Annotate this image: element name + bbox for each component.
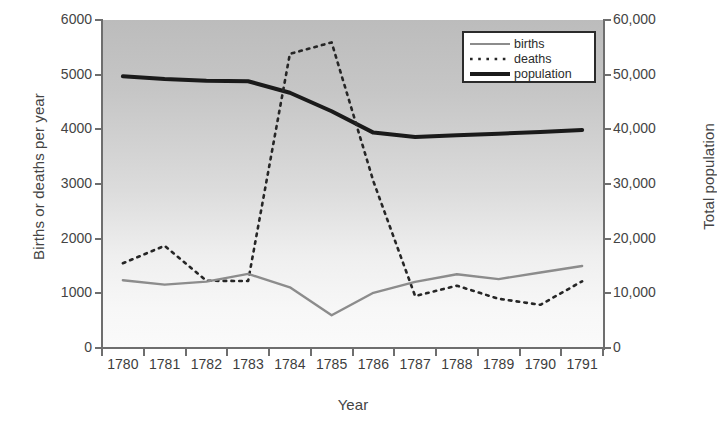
y-axis-right-tick-mark xyxy=(604,347,611,349)
x-axis-tick-mark xyxy=(143,349,145,356)
legend-label-population: population xyxy=(514,67,572,81)
y-axis-right-tick-mark xyxy=(604,292,611,294)
x-axis-title: Year xyxy=(102,396,604,413)
legend-label-deaths: deaths xyxy=(514,52,552,66)
y-axis-right-tick-mark xyxy=(604,238,611,240)
x-axis-tick-mark xyxy=(226,349,228,356)
y-axis-right-tick-mark xyxy=(604,74,611,76)
x-axis-tick-mark xyxy=(101,349,103,356)
y-axis-left-tick-mark xyxy=(95,128,102,130)
x-axis-tick-mark xyxy=(393,349,395,356)
y-axis-right-tick-mark xyxy=(604,19,611,21)
x-axis-tick-label: 1789 xyxy=(476,356,522,372)
legend-swatch-deaths-icon xyxy=(469,54,511,64)
legend-item-population: population xyxy=(469,66,589,81)
x-axis-tick-mark xyxy=(477,349,479,356)
x-axis-tick-mark xyxy=(435,349,437,356)
legend-item-births: births xyxy=(469,36,589,51)
y-axis-left-tick-mark xyxy=(95,19,102,21)
legend-item-deaths: deaths xyxy=(469,51,589,66)
y-axis-right-tick-label: 50,000 xyxy=(613,66,656,82)
y-axis-left-tick-label: 2000 xyxy=(36,230,92,246)
y-axis-right-tick-label: 10,000 xyxy=(613,284,656,300)
x-axis-tick-label: 1786 xyxy=(350,356,396,372)
x-axis-tick-label: 1782 xyxy=(183,356,229,372)
x-axis-tick-label: 1780 xyxy=(100,356,146,372)
y-axis-left-tick-mark xyxy=(95,74,102,76)
legend-label-births: births xyxy=(514,37,545,51)
y-axis-left-tick-label: 1000 xyxy=(36,284,92,300)
x-axis-tick-label: 1785 xyxy=(309,356,355,372)
x-axis-tick-mark xyxy=(185,349,187,356)
y-axis-left-tick-label: 4000 xyxy=(36,120,92,136)
y-axis-left-tick-label: 5000 xyxy=(36,66,92,82)
x-axis-tick-label: 1791 xyxy=(559,356,605,372)
x-axis-tick-label: 1787 xyxy=(392,356,438,372)
series-line-population xyxy=(123,76,582,137)
y-axis-right-title: Total population xyxy=(700,62,717,292)
y-axis-left-tick-label: 0 xyxy=(36,339,92,355)
y-axis-left-tick-label: 6000 xyxy=(36,11,92,27)
series-line-births xyxy=(123,266,582,315)
x-axis-tick-label: 1784 xyxy=(267,356,313,372)
y-axis-right-tick-label: 0 xyxy=(613,339,621,355)
y-axis-right-tick-mark xyxy=(604,183,611,185)
x-axis-tick-label: 1781 xyxy=(142,356,188,372)
y-axis-left-tick-mark xyxy=(95,183,102,185)
x-axis-tick-mark xyxy=(310,349,312,356)
y-axis-left-tick-mark xyxy=(95,238,102,240)
x-axis-tick-mark xyxy=(560,349,562,356)
chart-legend: births deaths population xyxy=(462,31,596,83)
y-axis-left-tick-label: 3000 xyxy=(36,175,92,191)
y-axis-right-tick-label: 60,000 xyxy=(613,11,656,27)
x-axis-tick-label: 1790 xyxy=(517,356,563,372)
y-axis-right-tick-label: 40,000 xyxy=(613,120,656,136)
y-axis-left-tick-mark xyxy=(95,292,102,294)
y-axis-right-tick-label: 20,000 xyxy=(613,230,656,246)
legend-swatch-births-icon xyxy=(469,39,511,49)
legend-swatch-population-icon xyxy=(469,69,511,79)
x-axis-tick-label: 1788 xyxy=(434,356,480,372)
x-axis-tick-mark xyxy=(268,349,270,356)
x-axis-tick-mark xyxy=(352,349,354,356)
x-axis-tick-mark xyxy=(519,349,521,356)
y-axis-right-tick-label: 30,000 xyxy=(613,175,656,191)
x-axis-tick-label: 1783 xyxy=(225,356,271,372)
y-axis-right-tick-mark xyxy=(604,128,611,130)
x-axis-tick-mark xyxy=(602,349,604,356)
